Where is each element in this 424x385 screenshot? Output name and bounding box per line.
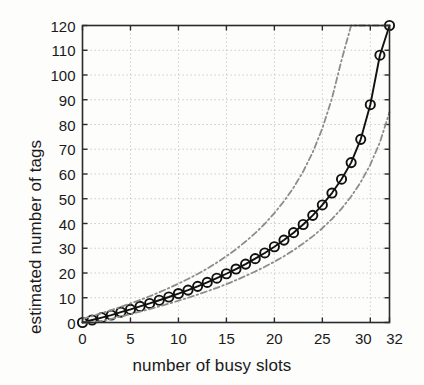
x-tick-label: 32 xyxy=(386,330,403,347)
x-axis-title: number of busy slots xyxy=(0,356,424,376)
x-tick-label: 0 xyxy=(78,330,86,347)
x-tick-label: 5 xyxy=(126,330,134,347)
x-tick-label: 25 xyxy=(314,330,331,347)
y-tick-label: 10 xyxy=(59,289,76,306)
x-tick-label: 20 xyxy=(266,330,283,347)
y-tick-label: 120 xyxy=(50,17,75,34)
y-tick-label: 20 xyxy=(59,265,76,282)
y-tick-label: 40 xyxy=(59,215,76,232)
series-line-lower-bound xyxy=(83,112,390,322)
y-tick-label: 70 xyxy=(59,141,76,158)
x-tick-label: 30 xyxy=(355,330,372,347)
y-tick-label: 100 xyxy=(50,67,75,84)
y-tick-label: 110 xyxy=(52,42,76,59)
y-tick-label: 80 xyxy=(59,116,76,133)
x-tick-label: 10 xyxy=(170,330,187,347)
y-tick-label: 90 xyxy=(59,91,76,108)
y-tick-label: 0 xyxy=(67,314,75,331)
y-axis-title: estimated number of tags xyxy=(26,140,46,334)
x-tick-label: 15 xyxy=(218,330,235,347)
y-tick-label: 30 xyxy=(59,240,76,257)
chart-figure: 0102030405060708090100110120 05101520253… xyxy=(0,0,424,385)
series-line-upper-bound xyxy=(83,26,390,319)
y-tick-label: 50 xyxy=(59,190,76,207)
y-tick-label: 60 xyxy=(59,166,76,183)
